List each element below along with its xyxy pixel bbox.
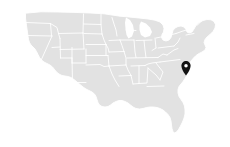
border-ms-tn xyxy=(131,66,145,67)
border-vt-nh xyxy=(192,22,194,28)
border-tn-ky xyxy=(127,58,158,59)
border-mn-ia xyxy=(109,40,120,41)
border-mt-wy xyxy=(59,33,84,34)
border-ia-mo xyxy=(109,52,124,53)
border-id-nv-ut xyxy=(52,47,60,48)
border-ga-fl xyxy=(147,86,164,87)
border-mt-nd xyxy=(83,14,84,33)
border-ar-la xyxy=(119,76,131,77)
border-nv-ut xyxy=(60,39,61,59)
border-mi-in-oh xyxy=(136,40,152,41)
border-sd-ne xyxy=(84,34,102,35)
us-location-map-widget: United States (contiguous 48 states) Mid… xyxy=(0,0,230,147)
border-az-nm xyxy=(72,58,73,83)
us-map-svg xyxy=(0,0,230,147)
border-nd-sd xyxy=(84,24,102,25)
border-or-ca xyxy=(27,36,52,37)
map-pin-hole xyxy=(184,64,188,67)
